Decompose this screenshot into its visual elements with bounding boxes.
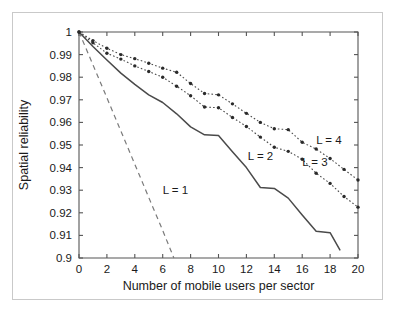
series-marker [273, 127, 276, 130]
series-marker [77, 30, 80, 33]
y-tick-label-0.93: 0.93 [50, 184, 72, 196]
series-marker [287, 150, 290, 153]
x-tick-label-0: 0 [76, 263, 82, 275]
series-marker [203, 105, 206, 108]
x-tick-label-18: 18 [324, 263, 337, 275]
series-marker [259, 121, 262, 124]
series-marker [314, 172, 317, 175]
series-marker [147, 70, 150, 73]
y-tick-label-0.9: 0.9 [56, 252, 72, 264]
y-tick-label-1: 1 [66, 26, 72, 38]
series-marker [342, 195, 345, 198]
series-marker [133, 64, 136, 67]
series-marker [356, 205, 359, 208]
series-marker [287, 128, 290, 131]
y-tick-label-0.97: 0.97 [50, 94, 72, 106]
spatial-reliability-line-chart: 024681012141618200.90.910.920.930.940.95… [0, 0, 397, 314]
series-marker [189, 94, 192, 97]
series-marker [119, 53, 122, 56]
series-label-l-3: L = 3 [302, 156, 327, 168]
x-tick-label-6: 6 [159, 263, 165, 275]
chart-plot-area: 024681012141618200.90.910.920.930.940.95… [0, 0, 397, 314]
series-marker [259, 135, 262, 138]
x-axis-title: Number of mobile users per sector [123, 279, 315, 293]
series-label-l-1: L = 1 [163, 184, 188, 196]
series-marker [189, 82, 192, 85]
series-marker [105, 47, 108, 50]
series-marker [342, 168, 345, 171]
series-marker [203, 92, 206, 95]
series-marker [175, 85, 178, 88]
x-tick-label-14: 14 [268, 263, 281, 275]
y-tick-label-0.94: 0.94 [50, 162, 73, 174]
series-marker [161, 76, 164, 79]
series-marker [245, 125, 248, 128]
series-marker [231, 116, 234, 119]
y-tick-label-0.98: 0.98 [50, 71, 72, 83]
series-marker [119, 57, 122, 60]
figure-container: 024681012141618200.90.910.920.930.940.95… [0, 0, 397, 314]
y-tick-label-0.91: 0.91 [50, 229, 72, 241]
series-marker [328, 157, 331, 160]
series-marker [91, 39, 94, 42]
x-tick-label-20: 20 [352, 263, 365, 275]
series-marker [231, 102, 234, 105]
series-label-l-2: L = 2 [248, 150, 273, 162]
series-marker [328, 182, 331, 185]
y-axis-title: Spatial reliability [17, 99, 31, 190]
series-marker [105, 52, 108, 55]
series-marker [314, 147, 317, 150]
x-tick-label-16: 16 [296, 263, 309, 275]
y-tick-label-0.99: 0.99 [50, 49, 72, 61]
series-marker [133, 57, 136, 60]
series-marker [273, 146, 276, 149]
series-marker [301, 141, 304, 144]
series-marker [161, 66, 164, 69]
series-marker [217, 106, 220, 109]
x-tick-label-2: 2 [104, 263, 110, 275]
y-tick-label-0.92: 0.92 [50, 207, 72, 219]
y-tick-label-0.96: 0.96 [50, 116, 72, 128]
x-tick-label-4: 4 [132, 263, 139, 275]
series-marker [175, 71, 178, 74]
series-line-l-1 [79, 32, 174, 258]
series-marker [217, 93, 220, 96]
series-label-l-4: L = 4 [316, 134, 342, 146]
x-tick-label-8: 8 [187, 263, 193, 275]
x-tick-label-12: 12 [240, 263, 253, 275]
y-tick-label-0.95: 0.95 [50, 139, 72, 151]
series-marker [356, 178, 359, 181]
x-tick-label-10: 10 [212, 263, 225, 275]
series-marker [147, 61, 150, 64]
series-marker [245, 112, 248, 115]
